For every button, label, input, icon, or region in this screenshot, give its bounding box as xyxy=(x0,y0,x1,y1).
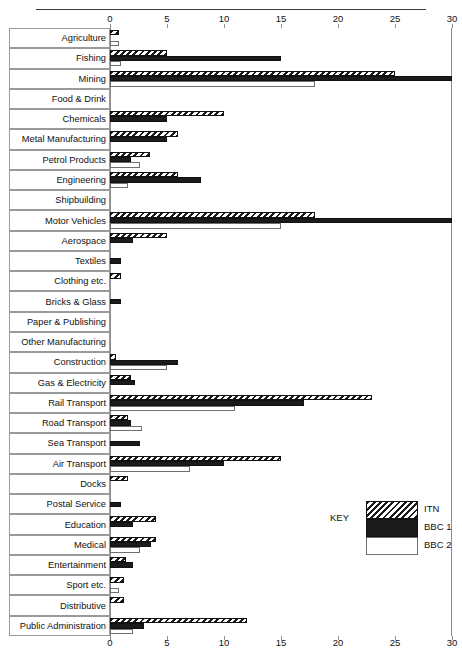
bar-group xyxy=(110,616,452,636)
category-label-text: Mining xyxy=(79,74,109,84)
bar-group xyxy=(110,312,452,332)
category-label-motor-vehicles: Motor Vehicles xyxy=(9,210,110,230)
category-label-agriculture: Agriculture xyxy=(9,28,110,48)
bar-bbc2 xyxy=(110,406,235,411)
x-tick-label-top-30: 30 xyxy=(447,13,458,24)
bar-bbc1 xyxy=(110,56,281,61)
bar-bbc1 xyxy=(110,562,133,567)
category-label-air-transport: Air Transport xyxy=(9,454,110,474)
category-label-text: Other Manufacturing xyxy=(21,337,109,347)
bar-bbc1 xyxy=(110,502,121,507)
x-tick-label-bottom-30: 30 xyxy=(447,637,458,648)
category-label-bricks-glass: Bricks & Glass xyxy=(9,291,110,311)
x-tickmark xyxy=(452,24,453,28)
bar-group xyxy=(110,332,452,352)
legend-swatch-bbc1 xyxy=(366,519,418,537)
category-label-text: Public Administration xyxy=(20,621,109,631)
bar-itn xyxy=(110,476,128,481)
category-label-text: Entertainment xyxy=(48,560,109,570)
category-label-text: Chemicals xyxy=(63,114,109,124)
bar-group xyxy=(110,271,452,291)
x-tick-label-bottom-10: 10 xyxy=(219,637,230,648)
bar-group xyxy=(110,291,452,311)
category-label-chemicals: Chemicals xyxy=(9,109,110,129)
legend-swatches xyxy=(366,501,418,555)
category-label-text: Food & Drink xyxy=(52,94,109,104)
category-label-text: Petrol Products xyxy=(42,155,109,165)
category-label-other-manufacturing: Other Manufacturing xyxy=(9,332,110,352)
bar-group xyxy=(110,89,452,109)
legend-label-bbc1: BBC 1 xyxy=(424,521,451,532)
category-label-road-transport: Road Transport xyxy=(9,413,110,433)
category-label-mining: Mining xyxy=(9,69,110,89)
x-tick-label-top-25: 25 xyxy=(390,13,401,24)
bar-bbc2 xyxy=(110,223,281,228)
bar-group xyxy=(110,129,452,149)
category-label-text: Engineering xyxy=(56,175,109,185)
category-label-text: Air Transport xyxy=(53,459,109,469)
x-tick-label-top-20: 20 xyxy=(333,13,344,24)
category-label-text: Metal Manufacturing xyxy=(22,134,109,144)
bar-bbc2 xyxy=(110,183,128,188)
x-tick-label-top-15: 15 xyxy=(276,13,287,24)
bar-group xyxy=(110,170,452,190)
bar-bbc1 xyxy=(110,116,167,121)
category-label-text: Shipbuilding xyxy=(55,195,109,205)
category-label-text: Road Transport xyxy=(42,418,109,428)
x-tick-label-top-0: 0 xyxy=(107,13,112,24)
category-label-text: Sea Transport xyxy=(48,438,109,448)
x-tick-label-top-5: 5 xyxy=(164,13,169,24)
category-label-text: Clothing etc. xyxy=(54,276,109,286)
bar-group xyxy=(110,352,452,372)
category-label-textiles: Textiles xyxy=(9,251,110,271)
category-label-text: Bricks & Glass xyxy=(46,297,109,307)
category-label-metal-manufacturing: Metal Manufacturing xyxy=(9,129,110,149)
x-tick-label-top-10: 10 xyxy=(219,13,230,24)
legend-swatch-itn xyxy=(366,501,418,519)
x-tick-label-bottom-15: 15 xyxy=(276,637,287,648)
category-label-clothing-etc: Clothing etc. xyxy=(9,271,110,291)
bar-bbc2 xyxy=(110,41,119,46)
bar-bbc1 xyxy=(110,137,167,142)
bar-itn xyxy=(110,597,124,602)
bar-bbc1 xyxy=(110,380,135,385)
bar-bbc2 xyxy=(110,61,121,66)
chart-page: 051015202530 AgricultureFishingMiningFoo… xyxy=(0,0,462,658)
bar-bbc1 xyxy=(110,238,133,243)
x-tick-label-bottom-20: 20 xyxy=(333,637,344,648)
bar-group xyxy=(110,413,452,433)
category-label-text: Agriculture xyxy=(62,33,109,43)
category-label-construction: Construction xyxy=(9,352,110,372)
category-label-postal-service: Postal Service xyxy=(9,494,110,514)
bar-bbc1 xyxy=(110,299,121,304)
bar-group xyxy=(110,210,452,230)
bar-group xyxy=(110,454,452,474)
category-label-distributive: Distributive xyxy=(9,595,110,615)
bar-bbc1 xyxy=(110,522,133,527)
bar-bbc2 xyxy=(110,588,119,593)
category-label-text: Education xyxy=(65,520,109,530)
category-label-text: Construction xyxy=(54,357,109,367)
category-label-text: Fishing xyxy=(76,53,109,63)
category-label-petrol-products: Petrol Products xyxy=(9,150,110,170)
bar-bbc2 xyxy=(110,547,140,552)
x-axis-bottom: 051015202530 xyxy=(0,637,462,650)
bar-group xyxy=(110,433,452,453)
category-label-text: Medical xyxy=(74,540,109,550)
category-label-column: AgricultureFishingMiningFood & DrinkChem… xyxy=(9,28,110,636)
category-label-text: Docks xyxy=(80,479,109,489)
category-label-gas-electricity: Gas & Electricity xyxy=(9,373,110,393)
bar-group xyxy=(110,595,452,615)
category-label-entertainment: Entertainment xyxy=(9,555,110,575)
category-label-shipbuilding: Shipbuilding xyxy=(9,190,110,210)
bar-group xyxy=(110,575,452,595)
bar-bbc1 xyxy=(110,441,140,446)
category-label-text: Postal Service xyxy=(47,499,109,509)
category-label-text: Sport etc. xyxy=(66,580,109,590)
category-label-paper-publishing: Paper & Publishing xyxy=(9,312,110,332)
bar-group xyxy=(110,251,452,271)
legend-label-itn: ITN xyxy=(424,503,439,514)
category-label-text: Rail Transport xyxy=(48,398,109,408)
bar-bbc2 xyxy=(110,81,315,86)
legend-label-bbc2: BBC 2 xyxy=(424,539,451,550)
